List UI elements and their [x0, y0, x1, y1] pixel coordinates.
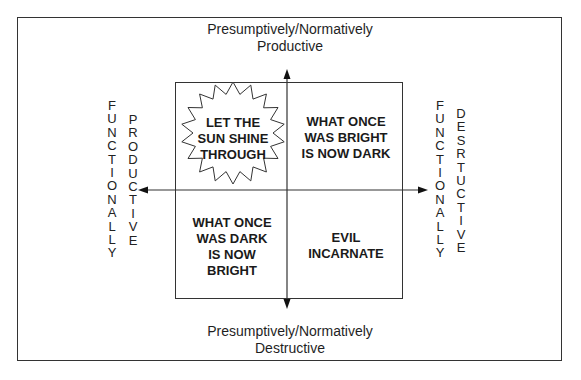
- letter: T: [436, 153, 444, 166]
- quadrant-top-left-line-1: LET THE: [190, 115, 276, 131]
- letter: I: [438, 166, 442, 179]
- letter: L: [108, 220, 115, 233]
- left-label-functionally: F U N C T I O N A L L Y: [106, 99, 118, 260]
- letter: L: [108, 233, 115, 246]
- letter: O: [128, 140, 138, 153]
- letter: P: [129, 113, 138, 126]
- letter: N: [107, 193, 116, 206]
- quadrant-bottom-left-line-2: WAS DARK: [182, 231, 282, 247]
- letter: L: [436, 220, 443, 233]
- letter: C: [435, 139, 444, 152]
- arrow-up-icon: [284, 69, 291, 79]
- letter: V: [129, 220, 138, 233]
- quadrant-bottom-right-line-1: EVIL: [296, 230, 396, 246]
- arrow-left-icon: [138, 187, 148, 194]
- letter: T: [108, 153, 116, 166]
- letter: F: [436, 99, 444, 112]
- letter: A: [436, 206, 445, 219]
- letter: D: [128, 153, 137, 166]
- letter: U: [435, 112, 444, 125]
- letter: D: [456, 107, 465, 120]
- letter: U: [107, 112, 116, 125]
- letter: N: [435, 126, 444, 139]
- letter: I: [459, 214, 463, 227]
- letter: F: [108, 99, 116, 112]
- right-label-functionally: F U N C T I O N A L L Y: [434, 99, 446, 260]
- letter: E: [129, 234, 138, 247]
- letter: N: [107, 126, 116, 139]
- quadrant-bottom-left-line-1: WHAT ONCE: [182, 215, 282, 231]
- letter: V: [457, 228, 466, 241]
- quadrant-top-right-line-2: WAS BRIGHT: [296, 130, 396, 146]
- quadrant-top-right-line-3: IS NOW DARK: [296, 146, 396, 162]
- quadrant-bottom-left: WHAT ONCE WAS DARK IS NOW BRIGHT: [182, 215, 282, 279]
- letter: O: [435, 179, 445, 192]
- axes-graphic: [0, 0, 581, 380]
- letter: Y: [436, 246, 445, 259]
- letter: E: [457, 241, 466, 254]
- letter: S: [457, 134, 466, 147]
- quadrant-bottom-right: EVIL INCARNATE: [296, 230, 396, 262]
- letter: T: [129, 193, 137, 206]
- quadrant-top-left-line-2: SUN SHINE: [190, 131, 276, 147]
- letter: Y: [108, 246, 117, 259]
- letter: U: [128, 167, 137, 180]
- letter: I: [131, 207, 135, 220]
- letter: L: [436, 233, 443, 246]
- quadrant-bottom-left-line-3: IS NOW: [182, 247, 282, 263]
- letter: C: [456, 187, 465, 200]
- letter: O: [107, 179, 117, 192]
- arrow-right-icon: [418, 187, 428, 194]
- letter: C: [128, 180, 137, 193]
- letter: N: [435, 193, 444, 206]
- letter: I: [110, 166, 114, 179]
- letter: T: [457, 201, 465, 214]
- quadrant-top-right: WHAT ONCE WAS BRIGHT IS NOW DARK: [296, 114, 396, 162]
- quadrant-bottom-left-line-4: BRIGHT: [182, 263, 282, 279]
- letter: T: [457, 161, 465, 174]
- quadrant-bottom-right-line-2: INCARNATE: [296, 246, 396, 262]
- letter: R: [128, 126, 137, 139]
- quadrant-top-left-line-3: THROUGH: [190, 147, 276, 163]
- arrow-down-icon: [284, 299, 291, 309]
- quadrant-top-right-line-1: WHAT ONCE: [296, 114, 396, 130]
- right-label-destructive: D E S R T U C T I V E: [455, 107, 467, 254]
- letter: C: [107, 139, 116, 152]
- letter: E: [457, 120, 466, 133]
- letter: R: [456, 147, 465, 160]
- letter: U: [456, 174, 465, 187]
- letter: A: [108, 206, 117, 219]
- quadrant-top-left: LET THE SUN SHINE THROUGH: [190, 115, 276, 163]
- left-label-productive: P R O D U C T I V E: [127, 113, 139, 247]
